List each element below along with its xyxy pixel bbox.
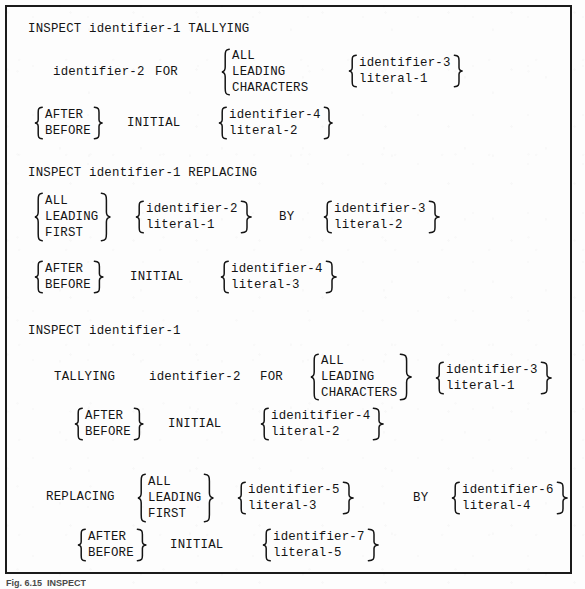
option-all: ALL xyxy=(148,474,201,490)
left-brace-icon xyxy=(34,106,43,140)
format-2-mode-group: ALL LEADING FIRST xyxy=(34,192,112,242)
option-identifier-3: identifier-3 xyxy=(359,55,451,71)
format-3-replacing-keyword: REPLACING xyxy=(46,489,115,505)
format-3-identifier-2: identifier-2 xyxy=(149,369,241,385)
scanned-page: INSPECT identifier-1 TALLYING identifier… xyxy=(0,0,585,589)
option-all: ALL xyxy=(232,48,308,64)
format-3-tallying-keyword: TALLYING xyxy=(54,369,115,385)
format-3-initial-arg-options-2: identifier-7 literal-5 xyxy=(273,528,365,562)
option-leading: LEADING xyxy=(148,490,201,506)
format-2-by-keyword: BY xyxy=(279,209,294,225)
right-brace-icon xyxy=(93,106,104,140)
left-brace-icon xyxy=(323,200,332,234)
left-brace-icon xyxy=(348,54,357,88)
left-brace-icon xyxy=(77,528,86,562)
left-brace-icon xyxy=(74,407,83,441)
format-1-after-before-options: AFTER BEFORE xyxy=(45,106,91,140)
left-brace-icon xyxy=(135,200,144,234)
left-brace-icon xyxy=(218,106,227,140)
option-literal-3: literal-3 xyxy=(248,498,340,514)
option-idenitifier-4: idenitifier-4 xyxy=(271,408,370,424)
right-brace-icon xyxy=(100,192,112,242)
format-3-mode-options: ALL LEADING FIRST xyxy=(148,473,201,523)
option-identifier-5: identifier-5 xyxy=(248,482,340,498)
option-before: BEFORE xyxy=(45,123,91,139)
option-identifier-4: identifier-4 xyxy=(229,107,321,123)
option-literal-5: literal-5 xyxy=(273,545,365,561)
option-leading: LEADING xyxy=(321,369,397,385)
option-identifier-3: identifier-3 xyxy=(446,362,538,378)
syntax-diagram-box: INSPECT identifier-1 TALLYING identifier… xyxy=(5,5,572,574)
option-before: BEFORE xyxy=(45,277,91,293)
option-identifier-2: identifier-2 xyxy=(146,201,238,217)
option-after: AFTER xyxy=(85,408,131,424)
format-3-for-keyword: FOR xyxy=(260,369,283,385)
format-3-initial-keyword-2: INITIAL xyxy=(170,537,223,553)
option-literal-1: literal-1 xyxy=(446,378,538,394)
format-3-initial-arg-group-1: idenitifier-4 literal-2 xyxy=(260,407,385,441)
option-first: FIRST xyxy=(45,225,98,241)
right-brace-icon xyxy=(323,106,334,140)
right-brace-icon xyxy=(325,260,338,294)
left-brace-icon xyxy=(451,481,460,515)
option-after: AFTER xyxy=(88,529,134,545)
format-3-dest-arg-group: identifier-6 literal-4 xyxy=(451,481,569,515)
right-brace-icon xyxy=(367,528,380,562)
option-characters: CHARACTERS xyxy=(321,385,397,401)
option-literal-2: literal-2 xyxy=(334,217,426,233)
format-2-dest-arg-group: identifier-3 literal-2 xyxy=(323,200,441,234)
format-1-for-options: ALL LEADING CHARACTERS xyxy=(232,48,308,96)
right-brace-icon xyxy=(453,54,464,88)
format-2-header: INSPECT identifier-1 REPLACING xyxy=(28,165,257,181)
format-3-initial-arg-options-1: idenitifier-4 literal-2 xyxy=(271,407,370,441)
format-1-initial-arg-group: identifier-4 literal-2 xyxy=(218,106,334,140)
format-3-source-arg-options: identifier-5 literal-3 xyxy=(248,481,340,515)
option-literal-2: literal-2 xyxy=(229,123,321,139)
right-brace-icon xyxy=(556,481,569,515)
left-brace-icon xyxy=(34,260,43,294)
format-1-initial-keyword: INITIAL xyxy=(127,115,180,131)
option-literal-1: literal-1 xyxy=(359,71,451,87)
format-2-initial-arg-group: identifier-4 literal-3 xyxy=(220,260,338,294)
option-identifier-4: identifier-4 xyxy=(231,261,323,277)
option-leading: LEADING xyxy=(45,209,98,225)
option-all: ALL xyxy=(321,353,397,369)
option-before: BEFORE xyxy=(88,545,134,561)
right-brace-icon xyxy=(428,200,441,234)
option-literal-1: literal-1 xyxy=(146,217,238,233)
right-brace-icon xyxy=(342,481,355,515)
format-3-initial-arg-group-2: identifier-7 literal-5 xyxy=(262,528,380,562)
left-brace-icon xyxy=(221,48,230,96)
format-1-for-option-group: ALL LEADING CHARACTERS xyxy=(221,48,308,96)
format-1-initial-arg-options: identifier-4 literal-2 xyxy=(229,106,321,140)
format-3-after-before-group-1: AFTER BEFORE xyxy=(74,407,145,441)
option-identifier-3: identifier-3 xyxy=(334,201,426,217)
right-brace-icon xyxy=(372,407,385,441)
right-brace-icon xyxy=(136,528,148,562)
option-identifier-6: identifier-6 xyxy=(462,482,554,498)
format-1-identifier-2: identifier-2 xyxy=(53,64,145,80)
right-brace-icon xyxy=(240,200,253,234)
left-brace-icon xyxy=(237,481,246,515)
format-2-initial-keyword: INITIAL xyxy=(130,269,183,285)
format-3-after-before-options-1: AFTER BEFORE xyxy=(85,407,131,441)
left-brace-icon xyxy=(310,353,319,401)
format-2-dest-arg-options: identifier-3 literal-2 xyxy=(334,200,426,234)
format-3-initial-keyword-1: INITIAL xyxy=(168,416,221,432)
option-literal-3: literal-3 xyxy=(231,277,323,293)
format-3-source-arg-group: identifier-5 literal-3 xyxy=(237,481,355,515)
format-1-header: INSPECT identifier-1 TALLYING xyxy=(28,21,249,37)
left-brace-icon xyxy=(262,528,271,562)
format-2-after-before-group: AFTER BEFORE xyxy=(34,260,105,294)
format-3-after-before-group-2: AFTER BEFORE xyxy=(77,528,148,562)
right-brace-icon xyxy=(203,473,215,523)
figure-caption: Fig. 6.15 INSPECT xyxy=(6,578,86,589)
option-literal-2: literal-2 xyxy=(271,424,370,440)
format-3-header: INSPECT identifier-1 xyxy=(28,323,181,339)
format-3-dest-arg-options: identifier-6 literal-4 xyxy=(462,481,554,515)
format-2-mode-options: ALL LEADING FIRST xyxy=(45,192,98,242)
option-after: AFTER xyxy=(45,261,91,277)
option-leading: LEADING xyxy=(232,64,308,80)
right-brace-icon xyxy=(133,407,145,441)
option-identifier-7: identifier-7 xyxy=(273,529,365,545)
